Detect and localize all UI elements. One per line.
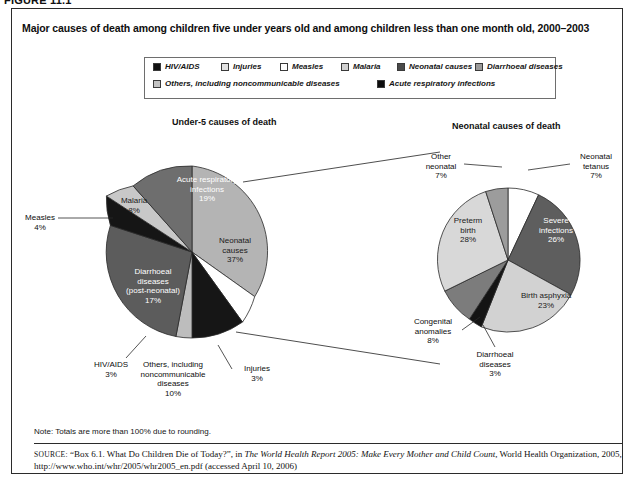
legend-label-malaria: Malaria (353, 62, 381, 72)
pie-label-malaria: Malaria 8% (107, 196, 161, 215)
pie-label-others-l2: noncommunicable (133, 370, 213, 380)
source-text-1: “Box 6.1. What Do Children Die of Today?… (68, 449, 245, 459)
legend-swatch-measles (280, 63, 288, 71)
pie-label-other-neonatal: Other neonatal 7% (418, 152, 464, 181)
pie-label-measles-l1: Measles (18, 213, 62, 223)
footer-divider (34, 443, 623, 444)
pie-label-diarrhoeal-diseases-l3: (post-neonatal) (111, 286, 195, 296)
legend-item-diarrhoeal-diseases: Diarrhoeal diseases (475, 62, 563, 72)
pie-label-hiv-aids: HIV/AIDS 3% (85, 360, 137, 379)
pie-label-severe-infections: Severe infections 26% (528, 216, 584, 245)
pie-label-birth-asphyxia-l2: 23% (510, 301, 582, 311)
pie-label-neonatal-causes: Neonatal causes 37% (200, 236, 270, 265)
pie-label-others-l4: 10% (133, 389, 213, 399)
legend-swatch-acute-respiratory-infections (377, 80, 385, 88)
figure-source: SOURCE: “Box 6.1. What Do Children Die o… (34, 449, 626, 472)
legend-swatch-hiv-aids (153, 63, 161, 71)
pie-label-preterm-birth-l2: birth (440, 226, 496, 236)
pie-label-acute-respiratory-infections: Acute respiratory infections 19% (162, 175, 252, 204)
legend-swatch-others (153, 80, 161, 88)
legend-item-measles: Measles (280, 62, 323, 72)
pie-label-injuries: Injuries 3% (235, 364, 279, 383)
pie-label-acute-respiratory-infections-l2: infections (162, 185, 252, 195)
pie-label-diarrhoeal-diseases-l1: Diarrhoeal (111, 267, 195, 277)
legend: HIV/AIDS Injuries Measles Malaria Neonat… (144, 57, 556, 99)
pie-label-diarrhoeal-diseases-neo-l3: 3% (466, 369, 524, 379)
pie-label-neonatal-tetanus-l3: 7% (570, 171, 622, 181)
pie-label-diarrhoeal-diseases-neo-l2: diseases (466, 360, 524, 370)
legend-item-injuries: Injuries (221, 62, 261, 72)
pie-label-diarrhoeal-diseases-neo: Diarrhoeal diseases 3% (466, 350, 524, 379)
pie-label-diarrhoeal-diseases: Diarrhoeal diseases (post-neonatal) 17% (111, 267, 195, 305)
pie-label-malaria-l1: Malaria (107, 196, 161, 206)
pie-label-neonatal-tetanus-l2: tetanus (570, 162, 622, 172)
pie-label-diarrhoeal-diseases-l4: 17% (111, 296, 195, 306)
legend-swatch-injuries (221, 63, 229, 71)
legend-swatch-diarrhoeal-diseases (475, 63, 483, 71)
pie-label-severe-infections-l3: 26% (528, 235, 584, 245)
chart-heading-neonatal: Neonatal causes of death (452, 121, 561, 131)
legend-label-measles: Measles (292, 62, 323, 72)
pie-label-birth-asphyxia: Birth asphyxia 23% (510, 291, 582, 310)
pie-label-measles: Measles 4% (18, 213, 62, 232)
legend-row-2: Others, including noncommunicable diseas… (145, 79, 555, 95)
pie-label-hiv-aids-l2: 3% (85, 370, 137, 380)
pie-label-injuries-l1: Injuries (235, 364, 279, 374)
pie-label-other-neonatal-l1: Other (418, 152, 464, 162)
pie-label-congenital-anomalies: Congenital anomalies 8% (404, 317, 462, 346)
pie-label-others-l1: Others, including (133, 360, 213, 370)
pie-label-diarrhoeal-diseases-neo-l1: Diarrhoeal (466, 350, 524, 360)
pie-label-neonatal-causes-l2: causes (200, 246, 270, 256)
legend-label-injuries: Injuries (233, 62, 261, 72)
source-italic-title: The World Health Report 2005: Make Every… (245, 449, 496, 459)
figure-page: FIGURE 11.1 Major causes of death among … (0, 0, 637, 485)
pie-label-neonatal-causes-l3: 37% (200, 255, 270, 265)
figure-number: FIGURE 11.1 (4, 0, 72, 6)
pie-label-congenital-anomalies-l3: 8% (404, 336, 462, 346)
legend-item-neonatal-causes: Neonatal causes (397, 62, 472, 72)
pie-label-congenital-anomalies-l2: anomalies (404, 327, 462, 337)
legend-label-diarrhoeal-diseases: Diarrhoeal diseases (487, 62, 563, 72)
pie-label-other-neonatal-l2: neonatal (418, 162, 464, 172)
pie-label-acute-respiratory-infections-l3: 19% (162, 194, 252, 204)
legend-row-1: HIV/AIDS Injuries Measles Malaria Neonat… (145, 62, 555, 78)
figure-title: Major causes of death among children fiv… (22, 22, 618, 35)
pie-label-severe-infections-l2: infections (528, 226, 584, 236)
legend-item-acute-respiratory-infections: Acute respiratory infections (377, 79, 495, 89)
pie-label-diarrhoeal-diseases-l2: diseases (111, 277, 195, 287)
pie-label-others-l3: diseases (133, 379, 213, 389)
pie-label-birth-asphyxia-l1: Birth asphyxia (510, 291, 582, 301)
legend-label-others: Others, including noncommunicable diseas… (165, 79, 340, 89)
legend-label-acute-respiratory-infections: Acute respiratory infections (389, 79, 495, 89)
legend-label-neonatal-causes: Neonatal causes (409, 62, 472, 72)
chart-heading-under5: Under-5 causes of death (172, 117, 277, 127)
pie-label-neonatal-causes-l1: Neonatal (200, 236, 270, 246)
pie-label-severe-infections-l1: Severe (528, 216, 584, 226)
source-prefix: SOURCE: (34, 450, 68, 459)
pie-label-malaria-l2: 8% (107, 206, 161, 216)
legend-item-malaria: Malaria (341, 62, 381, 72)
pie-label-preterm-birth: Preterm birth 28% (440, 216, 496, 245)
pie-label-neonatal-tetanus-l1: Neonatal (570, 152, 622, 162)
pie-label-injuries-l2: 3% (235, 374, 279, 384)
pie-label-congenital-anomalies-l1: Congenital (404, 317, 462, 327)
legend-label-hiv-aids: HIV/AIDS (165, 62, 200, 72)
pie-label-preterm-birth-l1: Preterm (440, 216, 496, 226)
pie-label-acute-respiratory-infections-l1: Acute respiratory (162, 175, 252, 185)
figure-note: Note: Totals are more than 100% due to r… (34, 427, 211, 436)
legend-item-hiv-aids: HIV/AIDS (153, 62, 200, 72)
pie-label-others: Others, including noncommunicable diseas… (133, 360, 213, 398)
pie-label-other-neonatal-l3: 7% (418, 171, 464, 181)
legend-item-others: Others, including noncommunicable diseas… (153, 79, 340, 89)
legend-swatch-neonatal-causes (397, 63, 405, 71)
legend-swatch-malaria (341, 63, 349, 71)
pie-label-hiv-aids-l1: HIV/AIDS (85, 360, 137, 370)
pie-label-preterm-birth-l3: 28% (440, 235, 496, 245)
pie-label-measles-l2: 4% (18, 223, 62, 233)
pie-label-neonatal-tetanus: Neonatal tetanus 7% (570, 152, 622, 181)
